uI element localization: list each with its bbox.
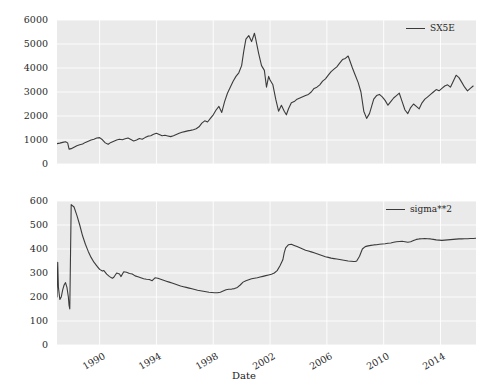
x-tick-label: 1990 xyxy=(67,351,106,379)
y-tick-label: 600 xyxy=(0,196,48,206)
y-tick-label: 4000 xyxy=(0,63,48,73)
y-tick-label: 2000 xyxy=(0,111,48,121)
y-tick-label: 6000 xyxy=(0,15,48,25)
legend-line-icon xyxy=(406,28,425,29)
y-tick-label: 400 xyxy=(0,244,48,254)
figure: 0100020003000400050006000 SX5E 010020030… xyxy=(0,0,488,386)
y-tick-label: 300 xyxy=(0,268,48,278)
y-tick-label: 100 xyxy=(0,316,48,326)
bottom-legend: sigma**2 xyxy=(386,204,452,214)
legend-line-icon xyxy=(386,209,405,210)
top-legend: SX5E xyxy=(406,23,455,33)
x-axis-label: Date xyxy=(232,370,256,381)
y-tick-label: 3000 xyxy=(0,87,48,97)
y-tick-label: 0 xyxy=(0,159,48,169)
x-tick-label: 2010 xyxy=(351,351,390,379)
top-legend-label: SX5E xyxy=(430,23,455,33)
y-tick-label: 1000 xyxy=(0,135,48,145)
y-tick-label: 0 xyxy=(0,340,48,350)
y-tick-label: 500 xyxy=(0,220,48,230)
series-line-sigma-2 xyxy=(57,205,476,309)
x-tick-label: 2006 xyxy=(294,351,333,379)
bottom-plot-canvas xyxy=(57,201,476,345)
y-tick-label: 200 xyxy=(0,292,48,302)
y-tick-label: 5000 xyxy=(0,39,48,49)
top-panel: 0100020003000400050006000 SX5E xyxy=(0,0,488,193)
bottom-legend-label: sigma**2 xyxy=(410,204,452,214)
x-tick-label: 2014 xyxy=(408,351,447,379)
x-tick-label: 1998 xyxy=(181,351,220,379)
bottom-panel: 0100200300400500600 19901994199820022006… xyxy=(0,193,488,386)
x-tick-label: 1994 xyxy=(124,351,163,379)
top-plot-canvas xyxy=(57,20,476,164)
series-line-sx5e xyxy=(57,33,473,149)
